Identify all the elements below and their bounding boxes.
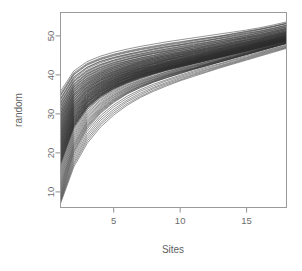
x-axis-title: Sites xyxy=(162,244,184,255)
y-tick-label: 40 xyxy=(45,70,56,81)
y-tick-label: 30 xyxy=(45,109,56,120)
x-tick-label: 5 xyxy=(111,215,116,226)
y-tick-label: 20 xyxy=(45,148,56,159)
x-tick-label: 10 xyxy=(175,215,186,226)
x-tick-label: 15 xyxy=(241,215,252,226)
y-tick-label: 50 xyxy=(45,31,56,42)
species-accumulation-chart: 1020304050 51015 random Sites xyxy=(0,0,302,271)
y-tick-label: 10 xyxy=(45,187,56,198)
y-axis-title: random xyxy=(13,93,24,127)
plot-container: 1020304050 51015 random Sites xyxy=(0,0,302,271)
